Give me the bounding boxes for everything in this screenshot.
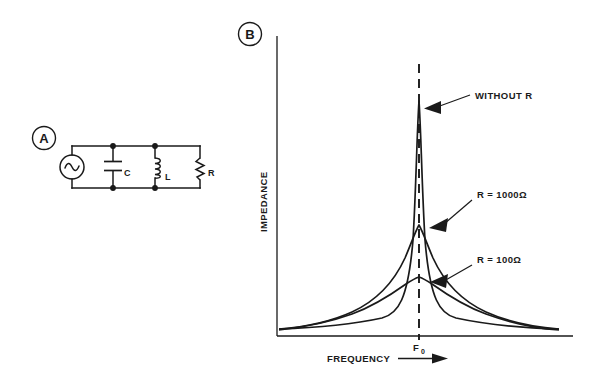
capacitor-label: C [124,168,131,178]
junction-dot-l-top [152,143,158,149]
panel-b-label: B [245,27,254,42]
resistor-label: R [208,168,215,178]
callout-without-r-text: WITHOUT R [475,90,532,101]
callout-r-1000-text: R = 1000Ω [477,189,527,200]
panel-a-label: A [39,131,49,146]
f0-label-sub: 0 [421,348,425,355]
y-axis-title: IMPEDANCE [258,171,269,232]
junction-dot-l-bottom [152,185,158,191]
x-axis-title: FREQUENCY [327,353,391,364]
junction-dot-c-top [110,143,116,149]
f0-label-main: F [413,342,419,353]
inductor-label: L [165,172,171,182]
junction-dot-c-bottom [110,185,116,191]
callout-r-100-text: R = 100Ω [477,254,521,265]
figure-root: A C [0,0,601,383]
